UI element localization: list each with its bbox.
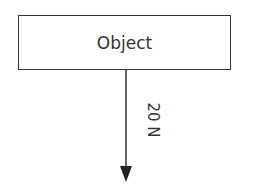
force-arrow	[0, 0, 253, 191]
force-label: 20 N	[144, 100, 162, 140]
arrowhead-icon	[120, 166, 132, 182]
